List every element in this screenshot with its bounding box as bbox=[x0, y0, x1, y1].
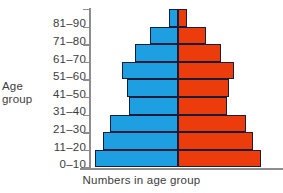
bar-segment-left bbox=[103, 132, 178, 150]
x-axis-line bbox=[80, 168, 283, 170]
bar-segment-right bbox=[178, 62, 234, 80]
bar-segment-left bbox=[129, 97, 178, 115]
bar-segment-right bbox=[178, 97, 227, 115]
bar-segment-right bbox=[178, 150, 261, 168]
bar-segment-left bbox=[135, 44, 178, 62]
bar-segment-left bbox=[150, 27, 178, 45]
bar-row bbox=[0, 9, 283, 27]
bar-row bbox=[0, 79, 283, 97]
bar-segment-right bbox=[178, 79, 229, 97]
bar-row bbox=[0, 27, 283, 45]
bar-row bbox=[0, 44, 283, 62]
plot-area bbox=[0, 0, 283, 193]
bar-row bbox=[0, 97, 283, 115]
bar-segment-left bbox=[169, 9, 178, 27]
bar-row bbox=[0, 62, 283, 80]
bar-segment-right bbox=[178, 115, 246, 133]
bar-segment-right bbox=[178, 44, 221, 62]
population-pyramid-chart: Age group 81–9071–8061–7051–6041–5031–40… bbox=[0, 0, 283, 193]
bar-row bbox=[0, 150, 283, 168]
bar-segment-left bbox=[122, 62, 178, 80]
bar-segment-left bbox=[127, 79, 178, 97]
bar-row bbox=[0, 115, 283, 133]
bar-segment-left bbox=[110, 115, 178, 133]
bar-segment-left bbox=[95, 150, 178, 168]
bar-segment-right bbox=[178, 27, 206, 45]
x-axis-title: Numbers in age group bbox=[0, 174, 283, 186]
bar-segment-right bbox=[178, 9, 187, 27]
bar-segment-right bbox=[178, 132, 253, 150]
bar-row bbox=[0, 132, 283, 150]
